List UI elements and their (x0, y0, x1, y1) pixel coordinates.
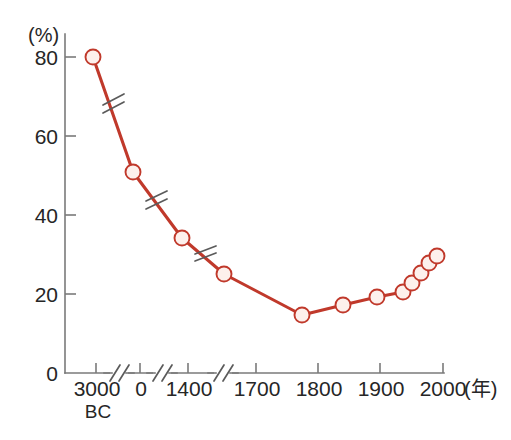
x-tick-label-1800: 1800 (296, 377, 343, 400)
line-break-marks (103, 94, 216, 261)
x-axis-era-label: BC (85, 401, 111, 422)
data-point-marker (370, 290, 385, 305)
x-tick-label-1900: 1900 (358, 377, 405, 400)
y-tick-labels: 80 60 40 20 0 (35, 46, 58, 385)
x-axis-unit-label: (年) (464, 378, 497, 400)
x-tick-marks (96, 363, 443, 373)
y-tick-label-80: 80 (35, 46, 58, 69)
data-point-marker (217, 267, 232, 282)
y-axis-unit-label: (%) (28, 24, 59, 46)
axes-group (65, 34, 444, 373)
data-point-marker (295, 308, 310, 323)
x-tick-label-1400: 1400 (166, 377, 213, 400)
x-tick-label-3000bc: 3000 (74, 377, 121, 400)
chart-canvas: (%) 80 60 40 20 0 3000 0 1400 1700 1800 … (0, 0, 511, 440)
y-tick-marks (65, 57, 76, 294)
chart-container: (%) 80 60 40 20 0 3000 0 1400 1700 1800 … (0, 0, 511, 440)
data-point-marker (336, 298, 351, 313)
y-tick-label-20: 20 (35, 283, 58, 306)
x-tick-label-0: 0 (135, 377, 147, 400)
x-tick-label-2000: 2000 (420, 377, 467, 400)
data-point-marker (430, 249, 445, 264)
data-point-marker (126, 165, 141, 180)
data-markers-group (86, 50, 445, 323)
y-tick-label-60: 60 (35, 125, 58, 148)
x-tick-label-1700: 1700 (234, 377, 281, 400)
x-tick-labels: 3000 0 1400 1700 1800 1900 2000 (年) BC (74, 377, 498, 422)
y-tick-label-40: 40 (35, 204, 58, 227)
data-point-marker (86, 50, 101, 65)
y-tick-label-0: 0 (46, 362, 58, 385)
data-point-marker (175, 231, 190, 246)
data-series-line (93, 57, 437, 315)
